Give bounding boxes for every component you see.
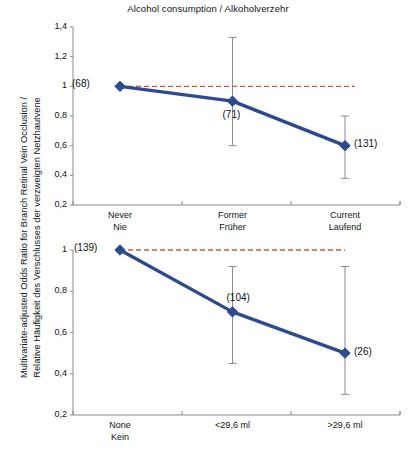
chart-panel-bottom: 10,80,60,40,2 None Kein<29,6 ml>29,6 ml … — [0, 232, 416, 465]
chart-panel-top: 1,41,210,80,60,40,2 Never NieFormer Früh… — [0, 0, 416, 232]
data-point-marker — [340, 140, 350, 150]
y-tick-label: 1 — [33, 244, 67, 254]
error-bar — [229, 37, 237, 145]
data-point-count-label: (104) — [227, 292, 250, 303]
y-tick-label: 1,4 — [33, 21, 67, 31]
data-point-count-label: (131) — [354, 138, 377, 149]
x-category-label: >29,6 ml — [295, 420, 395, 432]
x-category-label: Current Laufend — [295, 210, 395, 233]
data-point-marker — [340, 348, 350, 358]
y-tick-label: 0,8 — [33, 285, 67, 295]
data-point-marker — [227, 96, 237, 106]
y-tick-label: 0,8 — [33, 110, 67, 120]
data-point-count-label: (68) — [72, 78, 90, 89]
figure-container: Alcohol consumption / Alkoholverzehr Mul… — [0, 0, 416, 465]
y-tick-label: 0,6 — [33, 140, 67, 150]
error-bar — [341, 267, 349, 395]
y-tick-label: 1,2 — [33, 51, 67, 61]
x-category-label: None Kein — [70, 420, 170, 443]
data-point-count-label: (139) — [74, 242, 97, 253]
data-point-count-label: (71) — [223, 109, 241, 120]
x-category-label: <29,6 ml — [183, 420, 283, 432]
y-tick-label: 0,4 — [33, 368, 67, 378]
y-tick-label: 0,2 — [33, 409, 67, 419]
y-tick-label: 0,4 — [33, 169, 67, 179]
y-tick-label: 0,2 — [33, 199, 67, 209]
x-category-label: Former Früher — [183, 210, 283, 233]
data-point-count-label: (26) — [354, 346, 372, 357]
x-category-label: Never Nie — [70, 210, 170, 233]
data-point-marker — [115, 81, 125, 91]
y-tick-label: 1 — [33, 80, 67, 90]
y-tick-label: 0,6 — [33, 327, 67, 337]
